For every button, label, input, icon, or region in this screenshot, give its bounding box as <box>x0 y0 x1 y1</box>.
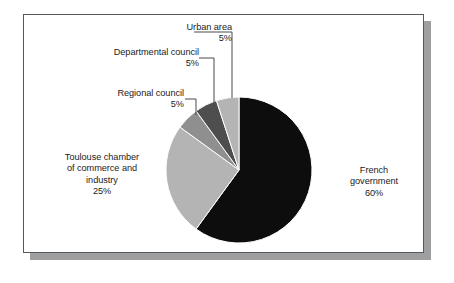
slice-label-french-government: French government 60% <box>336 165 412 199</box>
chart-frame <box>23 14 424 253</box>
slice-label-departmental-council: Departmental council 5% <box>88 47 199 70</box>
chart-canvas: Urban area 5% Departmental council 5% Re… <box>0 0 454 283</box>
slice-label-urban-area: Urban area 5% <box>148 22 232 45</box>
slice-label-regional-council: Regional council 5% <box>86 88 184 111</box>
slice-label-toulouse-chamber: Toulouse chamber of commerce and industr… <box>53 152 151 197</box>
